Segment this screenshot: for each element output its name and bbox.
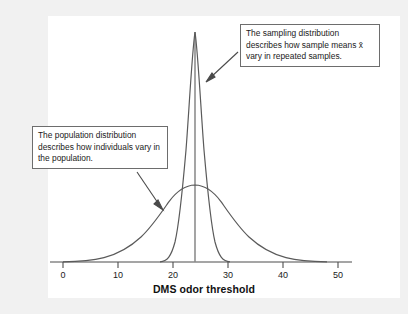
x-tick-label-0: 0 — [48, 270, 78, 280]
population-callout-arrow — [137, 172, 163, 210]
figure-container: The sampling distribution describes how … — [0, 0, 408, 314]
population-distribution-callout: The population distribution describes ho… — [32, 126, 168, 169]
x-tick-label-40: 40 — [268, 270, 298, 280]
sampling-distribution-callout: The sampling distribution describes how … — [240, 24, 380, 67]
x-tick-label-50: 50 — [323, 270, 353, 280]
sampling-callout-text: The sampling distribution describes how … — [246, 28, 363, 61]
x-axis-title: DMS odor threshold — [0, 283, 408, 295]
sampling-callout-arrow — [206, 52, 238, 82]
x-axis-ticks — [63, 262, 338, 268]
population-callout-text: The population distribution describes ho… — [38, 130, 160, 163]
x-tick-label-30: 30 — [213, 270, 243, 280]
x-tick-label-10: 10 — [103, 270, 133, 280]
x-tick-label-20: 20 — [158, 270, 188, 280]
